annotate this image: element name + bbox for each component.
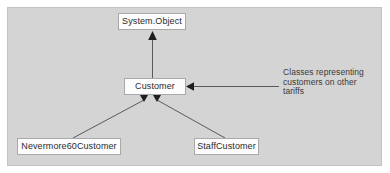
annotation-note: Classes representing customers on other …: [283, 68, 383, 97]
annotation-line: tariffs: [283, 87, 383, 97]
arrowhead-down-icon: [152, 94, 161, 102]
arrowhead-left-icon: [186, 82, 194, 91]
arrowhead-down-icon: [139, 94, 148, 102]
connector-staff-to-customer: [152, 94, 225, 138]
arrowhead-up-icon: [148, 31, 157, 40]
class-box-label: System.Object: [122, 17, 182, 26]
class-box-label: Customer: [135, 82, 175, 91]
diagram-screenshot: System.Object : vertical inheritance arr…: [0, 0, 390, 173]
class-box-customer[interactable]: Customer: [124, 78, 186, 95]
class-box-label: Nevermore60Customer: [21, 142, 116, 151]
class-box-label: StaffCustomer: [197, 142, 256, 151]
class-box-nevermore60customer[interactable]: Nevermore60Customer: [17, 138, 121, 155]
class-box-system-object[interactable]: System.Object: [118, 13, 186, 30]
class-box-staffcustomer[interactable]: StaffCustomer: [194, 138, 259, 155]
connector-customer-to-system-object: [148, 31, 157, 78]
connector-annotation-to-customer: [186, 82, 279, 91]
connector-nevermore-to-customer: [73, 94, 149, 138]
